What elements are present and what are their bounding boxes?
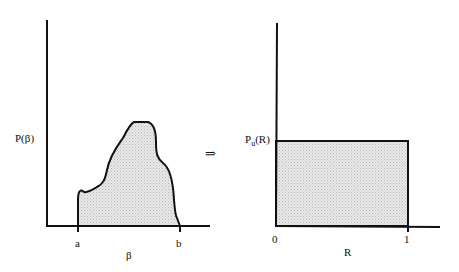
left-x-axis-label: β: [126, 249, 132, 261]
tick-b-label: b: [176, 237, 182, 249]
right-y-axis: [276, 23, 277, 226]
right-y-label-tail: (R): [255, 133, 270, 145]
diagram-canvas: [0, 0, 459, 272]
left-plot: [46, 20, 210, 232]
distribution-area: [78, 122, 180, 226]
right-plot: [275, 23, 440, 232]
left-y-axis-label: P(β): [15, 132, 34, 144]
right-y-axis-label: Pu(R): [245, 133, 270, 150]
tick-a-label: a: [75, 237, 80, 249]
tick-1-label: 1: [404, 233, 410, 245]
implies-arrow-icon: ⇒: [205, 148, 216, 160]
tick-0-label: 0: [272, 233, 278, 245]
right-x-axis: [275, 226, 440, 227]
uniform-area: [276, 141, 408, 226]
right-x-axis-label: R: [344, 246, 351, 258]
